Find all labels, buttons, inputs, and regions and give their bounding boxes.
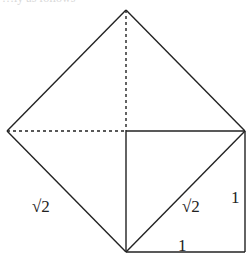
label-left-side: √2 <box>32 197 50 216</box>
label-bottom-side: 1 <box>178 236 187 255</box>
label-right-side: 1 <box>231 188 240 207</box>
geometry-diagram: √2 √2 1 1 <box>0 0 252 262</box>
diagonal-line <box>126 131 245 252</box>
label-diagonal: √2 <box>182 197 200 216</box>
